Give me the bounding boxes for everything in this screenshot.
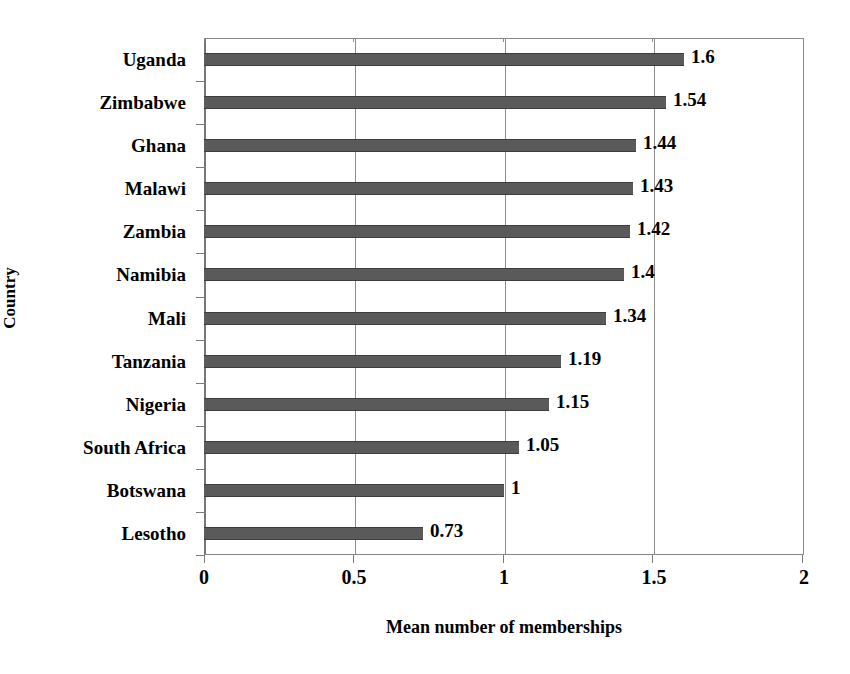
x-tick-label-1: 1 (499, 566, 509, 589)
bar-namibia (204, 268, 624, 281)
y-tick-mark (196, 81, 204, 82)
y-label-malawi: Malawi (125, 167, 186, 210)
y-label-botswana: Botswana (107, 469, 186, 512)
bar-row: 1.43 (204, 167, 804, 210)
x-tick-1.5 (652, 555, 653, 563)
y-tick-mark (196, 253, 204, 254)
bar-value-label: 1.54 (673, 88, 706, 112)
bar-row: 1.34 (204, 297, 804, 340)
y-label-mali: Mali (148, 297, 186, 340)
bar-value-label: 1 (511, 476, 521, 500)
bar-lesotho (204, 527, 423, 540)
y-tick-mark (196, 210, 204, 211)
y-label-zimbabwe: Zimbabwe (99, 81, 186, 124)
bar-mali (204, 312, 606, 325)
bar-value-label: 1.43 (640, 174, 673, 198)
x-tick-label-2: 2 (799, 566, 809, 589)
y-tick-mark (196, 469, 204, 470)
bar-south-africa (204, 441, 519, 454)
x-tick-label-1.5: 1.5 (642, 566, 667, 589)
bar-value-label: 1.19 (568, 347, 601, 371)
y-tick-mark (196, 340, 204, 341)
bar-value-label: 1.44 (643, 131, 676, 155)
x-tick-label-0: 0 (199, 566, 209, 589)
bar-uganda (204, 53, 684, 66)
bar-tanzania (204, 355, 561, 368)
bar-malawi (204, 182, 633, 195)
x-axis-labels: 00.511.52 (0, 566, 850, 600)
x-tick-2 (802, 555, 803, 563)
bar-value-label: 1.42 (637, 217, 670, 241)
x-tick-0 (204, 555, 205, 563)
y-label-namibia: Namibia (116, 253, 186, 296)
bar-value-label: 1.34 (613, 304, 646, 328)
bar-ghana (204, 139, 636, 152)
x-tick-1 (503, 555, 504, 563)
bar-row: 1 (204, 469, 804, 512)
bar-botswana (204, 484, 504, 497)
y-label-zambia: Zambia (123, 210, 186, 253)
bar-value-label: 0.73 (430, 519, 463, 543)
y-label-uganda: Uganda (123, 38, 186, 81)
bar-row: 1.44 (204, 124, 804, 167)
bar-nigeria (204, 398, 549, 411)
y-label-south-africa: South Africa (83, 426, 186, 469)
x-tick-0.5 (353, 555, 354, 563)
bar-zambia (204, 225, 630, 238)
bar-row: 1.05 (204, 426, 804, 469)
bar-value-label: 1.4 (631, 260, 655, 284)
bar-row: 1.42 (204, 210, 804, 253)
bar-value-label: 1.6 (691, 45, 715, 69)
y-tick-mark (196, 124, 204, 125)
x-axis-title: Mean number of memberships (204, 617, 804, 638)
bar-value-label: 1.15 (556, 390, 589, 414)
bar-value-label: 1.05 (526, 433, 559, 457)
bar-rows: 1.61.541.441.431.421.41.341.191.151.0510… (204, 38, 804, 555)
bar-chart: Country UgandaZimbabweGhanaMalawiZambiaN… (0, 0, 850, 674)
y-label-nigeria: Nigeria (126, 383, 186, 426)
x-tick-label-0.5: 0.5 (342, 566, 367, 589)
y-tick-mark (196, 512, 204, 513)
y-axis-title: Country (0, 238, 20, 358)
y-tick-mark (196, 426, 204, 427)
bar-row: 1.19 (204, 340, 804, 383)
y-tick-mark (196, 383, 204, 384)
y-tick-mark (196, 297, 204, 298)
bar-row: 1.4 (204, 253, 804, 296)
y-tick-mark (196, 555, 204, 556)
y-label-lesotho: Lesotho (122, 512, 186, 555)
bar-zimbabwe (204, 96, 666, 109)
y-label-ghana: Ghana (131, 124, 186, 167)
y-label-tanzania: Tanzania (112, 340, 186, 383)
y-axis-labels: UgandaZimbabweGhanaMalawiZambiaNamibiaMa… (20, 38, 196, 555)
y-tick-mark (196, 167, 204, 168)
bar-row: 0.73 (204, 512, 804, 555)
bar-row: 1.54 (204, 81, 804, 124)
bar-row: 1.15 (204, 383, 804, 426)
bar-row: 1.6 (204, 38, 804, 81)
